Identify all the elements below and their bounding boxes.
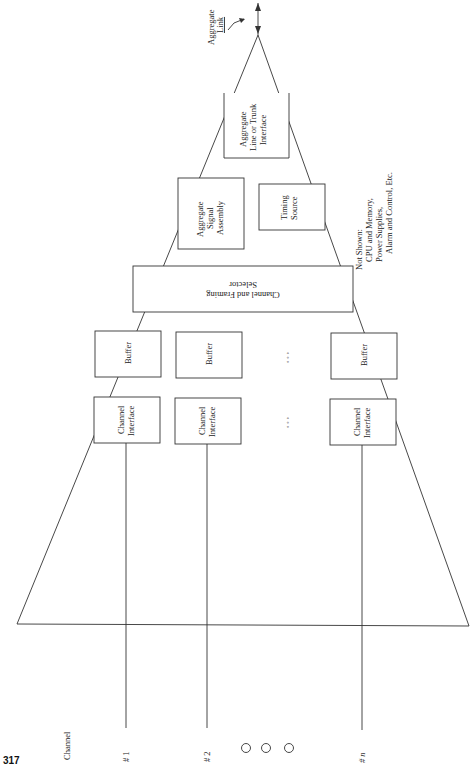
channel-label-1: # 1: [121, 751, 131, 762]
svg-text:Aggregate: Aggregate: [195, 201, 205, 237]
channel-label-2: # 2: [202, 751, 212, 762]
svg-text:Aggregate: Aggregate: [238, 111, 248, 147]
svg-text:Channel: Channel: [197, 406, 207, 435]
aggregate-link-pointer-icon: [228, 18, 245, 30]
channel-heading: Channel: [62, 731, 72, 760]
aggregate-link-arrow-icon: [255, 3, 261, 35]
svg-text:Signal: Signal: [205, 207, 215, 229]
svg-text:Alarm and Control, Etc.: Alarm and Control, Etc.: [384, 172, 394, 254]
channel-framing-selector-block: Channel and Framing Selector: [133, 266, 353, 312]
channel-label-n: # n: [357, 752, 367, 763]
svg-text:Channel: Channel: [352, 407, 362, 436]
multiplexer-block-diagram: Aggregate Link Aggregate Line or Trunk I…: [0, 0, 471, 768]
svg-text:Timing: Timing: [279, 195, 289, 220]
svg-text:Source: Source: [289, 196, 299, 220]
svg-text:Power Supplies,: Power Supplies,: [374, 207, 384, 262]
svg-text:Buffer: Buffer: [359, 344, 369, 366]
svg-text:Interface: Interface: [207, 407, 217, 437]
svg-text:Buffer: Buffer: [204, 343, 214, 365]
aggregate-signal-assembly-block: Aggregate Signal Assembly: [178, 178, 244, 249]
buffer-ellipsis: ◦ ◦ ◦: [284, 352, 292, 363]
svg-text:Channel and Framing: Channel and Framing: [205, 290, 279, 300]
svg-text:Assembly: Assembly: [215, 200, 225, 235]
svg-text:Channel: Channel: [116, 405, 126, 434]
channel-interface-block-2: Channel Interface: [175, 398, 241, 444]
buffer-block-2: Buffer: [176, 332, 242, 378]
svg-text:Interface: Interface: [258, 115, 268, 145]
aggregate-link-label: Aggregate Link: [206, 9, 225, 45]
svg-text:Interface: Interface: [362, 408, 372, 438]
timing-source-block: Timing Source: [259, 184, 325, 230]
svg-text:Selector: Selector: [229, 280, 257, 290]
channel-interface-block-n: Channel Interface: [330, 399, 396, 445]
svg-text:Link: Link: [215, 16, 225, 33]
svg-text:Interface: Interface: [126, 406, 136, 436]
channel-ellipsis-circles: [242, 744, 294, 753]
page-number: 317: [3, 755, 20, 766]
buffer-block-n: Buffer: [331, 333, 397, 379]
not-shown-note: Not Shown: CPU and Memory, Power Supplie…: [354, 172, 394, 270]
svg-text:Line or Trunk: Line or Trunk: [248, 103, 258, 151]
channel-interface-ellipsis: ◦ ◦ ◦: [284, 417, 292, 428]
aggregate-line-interface-block: Aggregate Line or Trunk Interface: [224, 93, 289, 158]
channel-interface-block-1: Channel Interface: [94, 397, 160, 443]
svg-text:Not Shown:: Not Shown:: [354, 229, 364, 270]
buffer-block-1: Buffer: [95, 331, 161, 377]
svg-text:Buffer: Buffer: [123, 342, 133, 364]
svg-text:CPU and Memory,: CPU and Memory,: [364, 198, 374, 262]
